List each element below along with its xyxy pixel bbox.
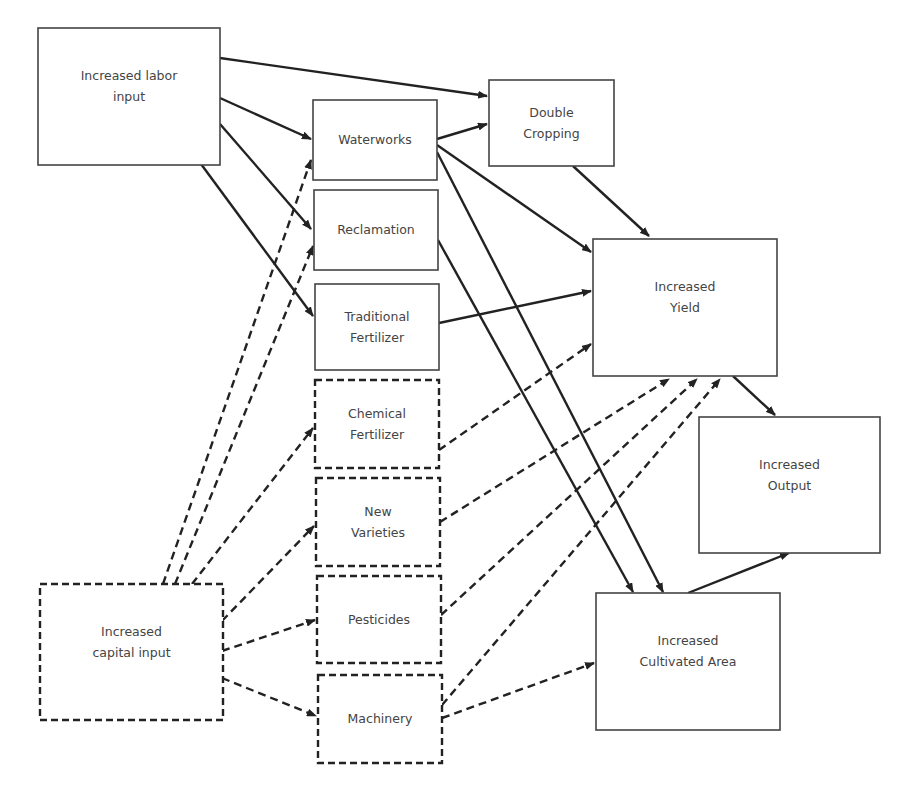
node-label: Output (768, 478, 812, 493)
node-box (315, 380, 439, 468)
edge-labor-to-waterworks (220, 98, 311, 139)
edge-labor-to-trad-fert (201, 164, 313, 316)
edge-capital-to-machinery (222, 678, 316, 716)
node-labor: Increased laborinput (38, 28, 220, 165)
node-box (489, 80, 614, 166)
node-label: Varieties (351, 525, 405, 540)
node-area: IncreasedCultivated Area (596, 593, 780, 730)
node-label: Machinery (348, 711, 413, 726)
edge-waterworks-to-double-crop (437, 124, 487, 139)
node-label: Reclamation (337, 222, 415, 237)
node-new-var: NewVarieties (316, 478, 440, 566)
node-label: Waterworks (338, 132, 412, 147)
node-label: capital input (92, 645, 170, 660)
node-label: Pesticides (348, 612, 410, 627)
edge-trad-fert-to-yield (439, 291, 591, 323)
node-label: Traditional (343, 309, 409, 324)
edge-labor-to-double-crop (220, 58, 487, 96)
node-machinery: Machinery (318, 675, 442, 763)
node-label: Chemical (348, 406, 406, 421)
node-double-crop: DoubleCropping (489, 80, 614, 166)
edge-labor-to-reclamation (220, 124, 311, 229)
node-waterworks: Waterworks (313, 100, 437, 180)
edge-new-var-to-yield (440, 379, 669, 522)
edge-area-to-output (688, 553, 789, 593)
node-box (315, 284, 439, 370)
edge-yield-to-output (733, 376, 775, 415)
node-chem-fert: ChemicalFertilizer (315, 380, 439, 468)
node-label: input (113, 89, 145, 104)
edge-capital-to-new-var (222, 526, 314, 621)
node-label: Increased labor (81, 68, 179, 83)
edge-chem-fert-to-yield (439, 344, 591, 450)
node-label: Fertilizer (350, 427, 405, 442)
edge-machinery-to-area (442, 663, 594, 718)
node-label: New (364, 504, 391, 519)
node-capital: Increasedcapital input (40, 584, 223, 720)
node-trad-fert: TraditionalFertilizer (315, 284, 439, 370)
node-reclamation: Reclamation (314, 190, 438, 270)
node-box (316, 478, 440, 566)
node-label: Cropping (523, 126, 579, 141)
node-label: Increased (655, 279, 716, 294)
node-label: Cultivated Area (640, 654, 737, 669)
node-label: Double (529, 105, 574, 120)
edge-capital-to-reclamation (175, 246, 313, 584)
node-label: Fertilizer (350, 330, 405, 345)
edge-double-crop-to-yield (573, 166, 649, 236)
node-label: Increased (759, 457, 820, 472)
node-yield: IncreasedYield (593, 239, 777, 376)
node-pesticides: Pesticides (317, 576, 441, 663)
node-label: Increased (658, 633, 719, 648)
node-label: Increased (101, 624, 162, 639)
edge-capital-to-pesticides (222, 620, 315, 651)
flow-diagram: Increased laborinputWaterworksReclamatio… (0, 0, 911, 793)
node-output: IncreasedOutput (699, 417, 880, 553)
edge-capital-to-waterworks (163, 160, 311, 584)
node-label: Yield (669, 300, 700, 315)
edge-capital-to-chem-fert (192, 428, 313, 584)
